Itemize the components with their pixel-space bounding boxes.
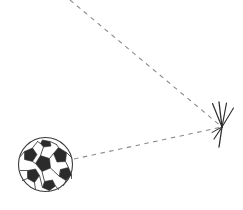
outgoing-trajectory-line	[74, 127, 222, 159]
impact-burst-icon	[212, 102, 234, 147]
soccer-ball	[19, 138, 73, 192]
trajectory-diagram-svg	[0, 0, 243, 210]
incoming-trajectory-line	[70, 0, 222, 127]
diagram-canvas	[0, 0, 243, 210]
